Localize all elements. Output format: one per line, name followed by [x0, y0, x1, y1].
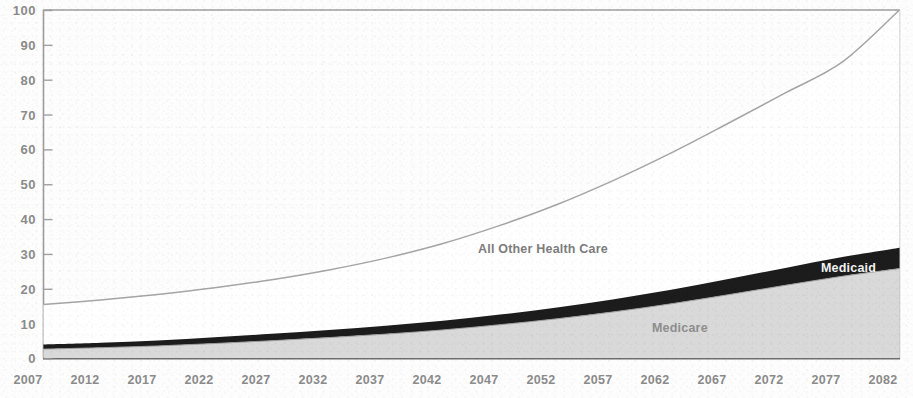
- x-tick-label: 2037: [344, 374, 396, 387]
- x-tick-label: 2077: [800, 374, 852, 387]
- x-tick-label: 2062: [629, 374, 681, 387]
- x-tick-label: 2057: [572, 374, 624, 387]
- x-tick-label: 2067: [686, 374, 738, 387]
- y-tick-label: 90: [2, 39, 36, 52]
- x-tick-label: 2017: [116, 374, 168, 387]
- x-tick-label: 2012: [59, 374, 111, 387]
- x-tick-label: 2082: [857, 374, 909, 387]
- y-tick-label: 0: [2, 352, 36, 365]
- y-tick-label: 60: [2, 143, 36, 156]
- y-tick-label: 80: [2, 74, 36, 87]
- x-tick-label: 2072: [743, 374, 795, 387]
- series-annotation-medicare: Medicare: [652, 322, 708, 335]
- y-tick-label: 30: [2, 248, 36, 261]
- y-tick-label: 50: [2, 178, 36, 191]
- x-tick-label: 2007: [2, 374, 54, 387]
- y-tick-label: 100: [2, 4, 36, 17]
- y-tick-label: 70: [2, 109, 36, 122]
- health-spending-area-chart: 100 90 80 70 60 50 40 30 20 10 0 2007 20…: [0, 0, 913, 398]
- chart-plot-area: [0, 0, 913, 398]
- x-tick-label: 2052: [515, 374, 567, 387]
- x-tick-label: 2027: [230, 374, 282, 387]
- x-tick-label: 2022: [173, 374, 225, 387]
- x-tick-label: 2042: [401, 374, 453, 387]
- series-annotation-all-other-health-care: All Other Health Care: [478, 243, 608, 256]
- series-areas: [44, 10, 900, 359]
- y-tick-label: 10: [2, 318, 36, 331]
- y-tick-label: 40: [2, 213, 36, 226]
- x-tick-label: 2032: [287, 374, 339, 387]
- y-tick-label: 20: [2, 283, 36, 296]
- x-tick-label: 2047: [458, 374, 510, 387]
- series-annotation-medicaid: Medicaid: [821, 262, 876, 275]
